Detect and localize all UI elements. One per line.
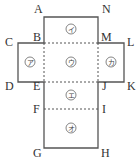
vertex-label-n: N [102,2,111,16]
vertex-label-i: I [102,102,106,116]
face-label-text: カ [108,59,115,67]
vertex-label-g: G [33,146,42,160]
face-label-e: エ [66,90,76,100]
vertex-label-h: H [101,146,110,160]
face-label-o: オ [66,123,76,133]
face-label-ka: カ [106,57,116,67]
face-label-a: ア [25,57,35,67]
vertex-label-k: K [127,79,136,93]
vertex-label-a: A [34,2,43,16]
face-label-i: イ [66,24,76,34]
box-net-diagram: イアウカエオ ANCBMLDEJKFIGH [0,0,139,166]
vertex-label-f: F [33,102,40,116]
face-label-u: ウ [66,57,76,67]
face-label-text: エ [68,92,75,100]
face-label-text: ウ [68,59,75,67]
vertex-label-c: C [5,35,13,49]
face-label-text: ア [27,59,34,67]
vertex-label-l: L [127,35,134,49]
face-label-text: イ [68,26,75,34]
vertex-label-b: B [33,30,41,44]
vertex-label-d: D [5,79,14,93]
vertex-label-m: M [101,30,112,44]
vertex-label-e: E [33,79,40,93]
face-label-text: オ [68,125,75,133]
vertex-label-j: J [102,79,107,93]
